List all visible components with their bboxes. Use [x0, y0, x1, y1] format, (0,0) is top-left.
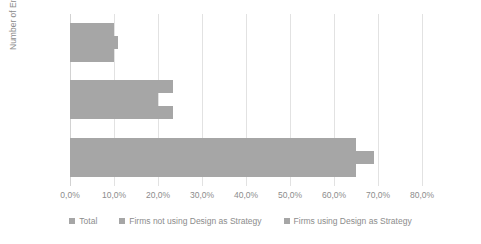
bar-chart: Number of Employees 10-4950-249+250 Tota…: [0, 0, 481, 244]
bar-row: [70, 36, 466, 49]
legend-label: Firms using Design as Strategy: [294, 216, 412, 226]
bar-group: [70, 129, 466, 186]
bar-group: [70, 14, 466, 71]
bar: [70, 23, 114, 36]
x-tick-label: 20,0%: [136, 190, 180, 200]
legend-swatch-icon: [69, 218, 75, 224]
legend-swatch-icon: [284, 218, 290, 224]
legend-label: Total: [79, 216, 97, 226]
bar-row: [70, 49, 466, 62]
bar-row: [70, 164, 466, 177]
bar: [70, 138, 356, 151]
legend-label: Firms not using Design as Strategy: [129, 216, 261, 226]
bar-row: [70, 151, 466, 164]
y-axis-title: Number of Employees: [8, 0, 18, 50]
plot-area: 10-4950-249+250: [70, 14, 466, 186]
bar-row: [70, 106, 466, 119]
bar: [70, 36, 118, 49]
bar: [70, 80, 173, 93]
bar: [70, 106, 173, 119]
bar-row: [70, 23, 466, 36]
bar: [70, 93, 158, 106]
x-tick-label: 0,0%: [48, 190, 92, 200]
x-tick-label: 40,0%: [224, 190, 268, 200]
bar: [70, 151, 374, 164]
legend-swatch-icon: [119, 218, 125, 224]
bar-row: [70, 93, 466, 106]
bar: [70, 164, 356, 177]
x-tick-label: 60,0%: [312, 190, 356, 200]
bar-row: [70, 80, 466, 93]
x-tick-label: 80,0%: [400, 190, 444, 200]
bar-row: [70, 138, 466, 151]
x-tick-label: 50,0%: [268, 190, 312, 200]
bar: [70, 49, 114, 62]
bar-group: [70, 71, 466, 128]
legend-item[interactable]: Total: [69, 216, 97, 226]
chart-legend: TotalFirms not using Design as StrategyF…: [0, 216, 481, 226]
legend-item[interactable]: Firms using Design as Strategy: [284, 216, 412, 226]
legend-item[interactable]: Firms not using Design as Strategy: [119, 216, 261, 226]
x-tick-label: 30,0%: [180, 190, 224, 200]
x-tick-label: 10,0%: [92, 190, 136, 200]
x-tick-label: 70,0%: [356, 190, 400, 200]
